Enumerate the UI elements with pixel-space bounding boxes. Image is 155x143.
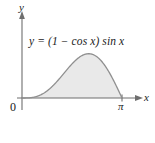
- figure-container: y x 0 π y = (1 − cos x) sin x: [0, 0, 155, 143]
- area-fill: [22, 54, 122, 98]
- x-axis-arrowhead: [135, 95, 143, 101]
- equation-annotation: y = (1 − cos x) sin x: [29, 35, 124, 48]
- x-tick-label-pi: π: [118, 101, 124, 112]
- x-axis-label: x: [144, 92, 149, 103]
- origin-label: 0: [10, 101, 16, 113]
- plot-svg: [0, 0, 155, 143]
- y-axis-label: y: [19, 2, 24, 13]
